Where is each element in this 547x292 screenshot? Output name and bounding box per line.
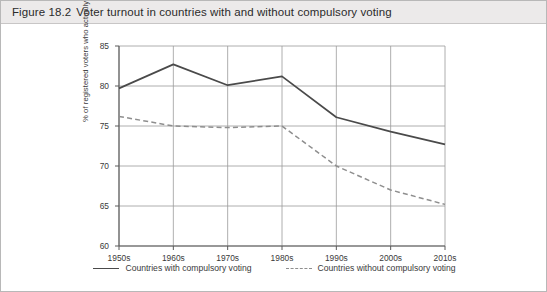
y-tick-label: 75	[85, 121, 109, 131]
x-tick-label: 1990s	[311, 253, 361, 263]
y-tick-label: 60	[85, 241, 109, 251]
y-tick-label: 70	[85, 161, 109, 171]
figure-caption: Figure 18.2Voter turnout in countries wi…	[1, 6, 392, 18]
y-tick-label: 85	[85, 41, 109, 51]
dashed-line-swatch-icon	[286, 268, 312, 269]
x-tick-label: 2000s	[366, 253, 416, 263]
legend-label-without-compulsory-voting: Countries without compulsory voting	[318, 263, 456, 273]
x-tick-label: 1980s	[257, 253, 307, 263]
solid-line-swatch-icon	[93, 268, 119, 269]
chart-legend: Countries with compulsory voting Countri…	[1, 263, 547, 273]
x-tick-label: 1950s	[94, 253, 144, 263]
figure-container: Figure 18.2Voter turnout in countries wi…	[0, 0, 547, 292]
y-tick-label: 80	[85, 81, 109, 91]
x-tick-label: 2010s	[420, 253, 470, 263]
x-tick-label: 1970s	[203, 253, 253, 263]
chart-body: % of registered voters who actually vote…	[1, 24, 547, 292]
legend-item-with-compulsory-voting: Countries with compulsory voting	[93, 263, 251, 273]
y-tick-label: 65	[85, 201, 109, 211]
x-tick-label: 1960s	[148, 253, 198, 263]
figure-title: Voter turnout in countries with and with…	[76, 6, 392, 18]
line-chart-svg	[1, 24, 547, 292]
legend-label-with-compulsory-voting: Countries with compulsory voting	[125, 263, 251, 273]
figure-number: Figure 18.2	[12, 6, 71, 18]
legend-item-without-compulsory-voting: Countries without compulsory voting	[286, 263, 456, 273]
